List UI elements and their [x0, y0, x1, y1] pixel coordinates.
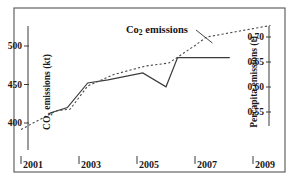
- y-axis-title: CO2 emissions (kt): [42, 54, 54, 130]
- left-tick-label: 450: [8, 80, 23, 90]
- left-tick-label: 400: [8, 118, 23, 128]
- series-line-co2: [50, 58, 230, 113]
- x-tick-label: 2007: [197, 159, 217, 170]
- x-tick-label: 2009: [255, 159, 275, 170]
- chart-figure: 400450500 0.550.600.650.70 2001200320052…: [0, 0, 295, 183]
- data-series-layer: [21, 26, 270, 130]
- annotation-label-co2: Co2 emissions: [126, 24, 188, 37]
- series-line-percapita: [21, 26, 270, 130]
- chart-canvas: 400450500 0.550.600.650.70 2001200320052…: [0, 0, 295, 183]
- x-tick-label: 2003: [81, 159, 101, 170]
- left-tick-label: 500: [8, 41, 23, 51]
- left-axis-ticks: 400450500: [8, 41, 29, 128]
- x-tick-label: 2001: [23, 159, 43, 170]
- y2-axis-title: Percapita emissions (t): [249, 36, 260, 128]
- x-tick-label: 2005: [139, 159, 159, 170]
- x-axis-ticks: 20012003200520072009: [21, 156, 275, 170]
- annotation-layer: Co2 emissions: [126, 24, 212, 43]
